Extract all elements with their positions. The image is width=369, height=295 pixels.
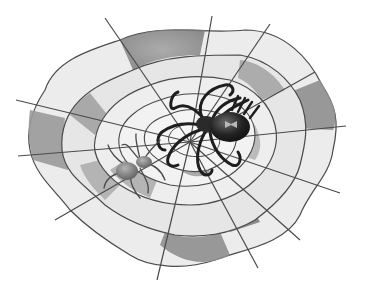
web: [16, 16, 346, 280]
spider-web-illustration: Two spiders on a spider web: [0, 0, 369, 295]
spider-web-drawing: [0, 0, 369, 295]
